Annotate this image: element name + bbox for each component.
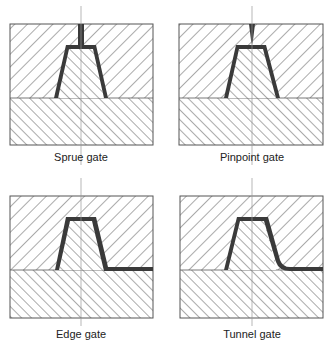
panel-label: Tunnel gate [223, 328, 281, 340]
panel-label: Edge gate [56, 328, 106, 340]
panel-edge-gate: Edge gate [10, 178, 153, 340]
lower-mold-half [10, 98, 153, 145]
gate-types-diagram: Sprue gate Pinpoint gate Edge gate [0, 0, 332, 352]
panel-label: Pinpoint gate [220, 151, 284, 163]
panel-tunnel-gate: Tunnel gate [180, 178, 323, 340]
panel-label: Sprue gate [54, 151, 108, 163]
lower-mold-half [179, 98, 323, 145]
panel-pinpoint-gate: Pinpoint gate [179, 6, 323, 165]
lower-mold-half [180, 270, 323, 318]
panel-sprue-gate: Sprue gate [10, 6, 153, 165]
lower-mold-half [10, 270, 153, 318]
